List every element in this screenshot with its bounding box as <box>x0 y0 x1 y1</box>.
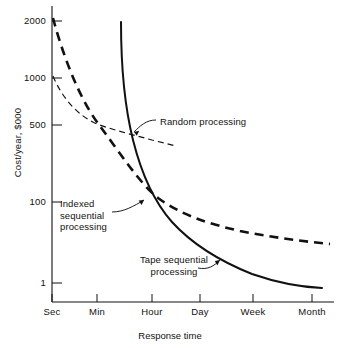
series-random-processing <box>53 76 176 146</box>
x-tick-label-month: Month <box>288 306 336 317</box>
annotation-indexed-line-2: sequential <box>60 210 124 222</box>
annotation-tape-line-1: Tape sequential <box>126 254 222 266</box>
x-axis-title: Response time <box>110 330 230 341</box>
series-tape-sequential-processing <box>121 22 322 288</box>
annotation-indexed-line-1: Indexed <box>60 198 124 210</box>
y-tick-label-500: 500 <box>4 119 46 130</box>
y-tick-label-2000: 2000 <box>4 15 46 26</box>
x-tick-label-min: Min <box>77 306 117 317</box>
y-tick-label-1: 1 <box>4 277 46 288</box>
annotation-indexed-sequential: Indexed sequential processing <box>60 198 124 233</box>
y-tick-label-100: 100 <box>4 196 46 207</box>
annotation-tape-line-2: processing <box>126 266 222 278</box>
chart-plot-area <box>0 0 339 348</box>
x-tick-label-sec: Sec <box>32 306 72 317</box>
annotation-leader-random <box>134 120 156 136</box>
annotation-random-processing: Random processing <box>160 116 246 128</box>
x-tick-label-hour: Hour <box>131 306 173 317</box>
annotation-tape-sequential: Tape sequential processing <box>126 254 222 277</box>
x-axis-ticks <box>52 294 312 302</box>
x-tick-label-day: Day <box>180 306 220 317</box>
annotation-indexed-line-3: processing <box>60 221 124 233</box>
annotation-random-line-1: Random processing <box>160 116 246 128</box>
y-axis-ticks <box>52 21 62 283</box>
y-tick-label-1000: 1000 <box>4 72 46 83</box>
y-axis-title: Cost/year, $000 <box>12 88 23 198</box>
chart-figure: Cost/year, $000 2000 1000 500 100 1 Sec … <box>0 0 339 348</box>
x-tick-label-week: Week <box>231 306 275 317</box>
